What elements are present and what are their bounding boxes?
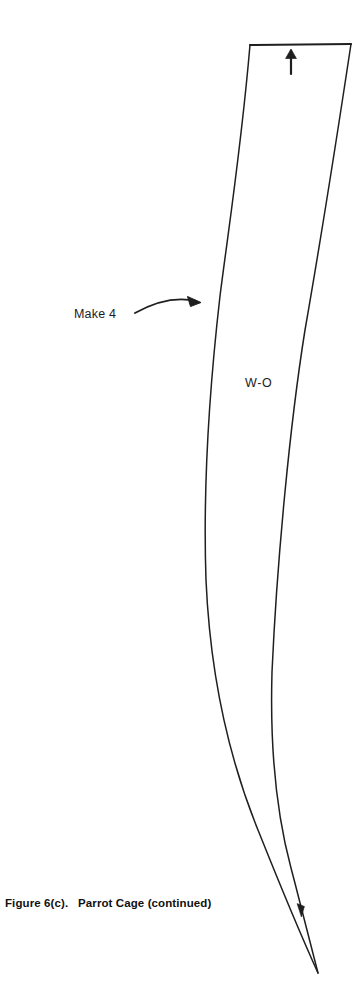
piece-code-label: W-O (245, 377, 272, 390)
curved-arrow-icon (135, 297, 201, 314)
pattern-top-edge (250, 44, 351, 45)
pattern-piece-drawing (0, 0, 361, 1008)
figure-caption: Figure 6(c). Parrot Cage (continued) (5, 897, 211, 909)
figure-page: Make 4 W-O Figure 6(c). Parrot Cage (con… (0, 0, 361, 1008)
up-arrow-icon (286, 49, 297, 74)
make-quantity-label: Make 4 (74, 308, 116, 321)
pattern-outer-edge (205, 45, 318, 973)
pattern-inner-edge (272, 44, 351, 973)
